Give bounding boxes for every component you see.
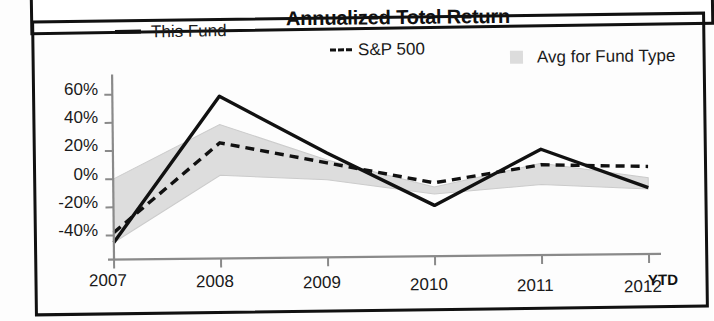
x-axis-tick-label: 2011	[517, 276, 554, 296]
x-axis-tick-label: 2007	[89, 271, 127, 291]
x-axis-tick-label: 2009	[303, 273, 341, 293]
ytd-label: YTD	[648, 271, 678, 288]
x-axis-tick-label: 2008	[196, 272, 234, 292]
x-axis-tick-label: 2010	[410, 274, 448, 294]
